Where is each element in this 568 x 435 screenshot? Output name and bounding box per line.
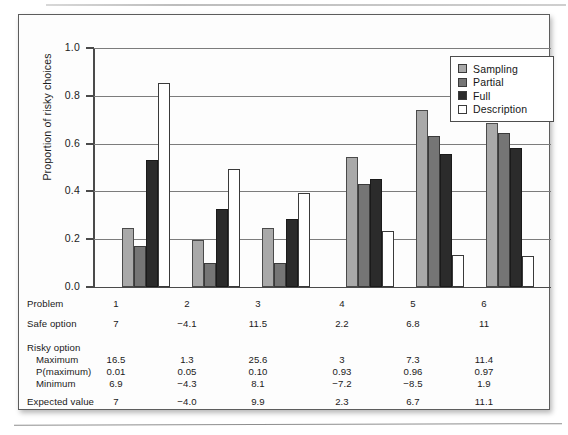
table-cell: 25.6 xyxy=(235,354,281,365)
table-cell: 7 xyxy=(93,396,139,407)
table-cell: −4.0 xyxy=(164,396,210,407)
table-cell: 0.97 xyxy=(461,366,507,377)
table-row-label: Problem xyxy=(27,298,63,309)
table-cell: 0.96 xyxy=(390,366,436,377)
bar-partial-problem-1 xyxy=(134,246,146,287)
table-cell: 11.1 xyxy=(461,396,507,407)
bar-partial-problem-2 xyxy=(204,263,216,287)
bar-description-problem-5 xyxy=(452,255,464,287)
table-cell: 0.10 xyxy=(235,366,281,377)
table-cell: 5 xyxy=(390,298,436,309)
legend-swatch-full-icon xyxy=(458,91,467,100)
legend-swatch-description-icon xyxy=(458,105,467,114)
bar-full-problem-5 xyxy=(440,154,452,287)
y-axis-tick xyxy=(86,95,94,97)
table-row: Problem123456 xyxy=(27,298,543,311)
bar-full-problem-1 xyxy=(146,160,158,287)
table-row-label: Safe option xyxy=(27,318,77,329)
bar-description-problem-3 xyxy=(298,193,310,287)
legend-label: Partial xyxy=(473,76,504,88)
table-row-label: Maximum xyxy=(36,354,78,365)
y-axis-tick xyxy=(86,47,94,49)
legend-label: Sampling xyxy=(473,63,518,75)
table-cell: 6.9 xyxy=(93,378,139,389)
bar-sampling-problem-6 xyxy=(486,123,498,287)
bar-group-problem-4 xyxy=(346,48,394,287)
bar-sampling-problem-5 xyxy=(416,110,428,287)
legend-item-description: Description xyxy=(458,103,547,116)
table-cell: 9.9 xyxy=(235,396,281,407)
bar-full-problem-4 xyxy=(370,179,382,287)
table-row-label: P(maximum) xyxy=(36,366,91,377)
bar-description-problem-1 xyxy=(158,83,170,287)
y-axis-tick xyxy=(86,143,94,145)
bar-partial-problem-5 xyxy=(428,136,440,287)
y-axis-tick-label: 0.2 xyxy=(46,232,80,244)
bar-group-problem-2 xyxy=(192,48,240,287)
table-cell: 11.5 xyxy=(235,318,281,329)
bar-partial-problem-6 xyxy=(498,133,510,287)
legend-item-partial: Partial xyxy=(458,76,547,89)
table-cell: 4 xyxy=(319,298,365,309)
table-cell: 8.1 xyxy=(235,378,281,389)
bar-group-problem-3 xyxy=(262,48,310,287)
table-cell: 11 xyxy=(461,318,507,329)
bar-description-problem-2 xyxy=(228,169,240,287)
table-cell: 7 xyxy=(93,318,139,329)
legend-item-sampling: Sampling xyxy=(458,62,547,75)
table-cell: 0.05 xyxy=(164,366,210,377)
bar-sampling-problem-4 xyxy=(346,157,358,287)
y-axis-tick-label: 0.0 xyxy=(46,280,80,292)
table-cell: 2 xyxy=(164,298,210,309)
table-cell: 7.3 xyxy=(390,354,436,365)
table-cell: −7.2 xyxy=(319,378,365,389)
table-cell: 0.93 xyxy=(319,366,365,377)
table-cell: 11.4 xyxy=(461,354,507,365)
figure-frame: 1.00.80.60.40.20.0Proportion of risky ch… xyxy=(18,14,550,410)
table-cell: 2.3 xyxy=(319,396,365,407)
axis-baseline xyxy=(94,287,551,288)
table-cell: 3 xyxy=(319,354,365,365)
table-row: Expected value7−4.09.92.36.711.1 xyxy=(27,396,543,409)
table-cell: −4.1 xyxy=(164,318,210,329)
bar-sampling-problem-2 xyxy=(192,240,204,287)
page-top-rule xyxy=(46,4,566,6)
table-cell: 1.9 xyxy=(461,378,507,389)
legend-swatch-sampling-icon xyxy=(458,64,467,73)
page-bottom-rule xyxy=(14,423,562,426)
legend-item-full: Full xyxy=(458,89,547,102)
table-cell: −4.3 xyxy=(164,378,210,389)
y-axis-tick xyxy=(86,190,94,192)
bar-full-problem-2 xyxy=(216,209,228,287)
y-axis-tick xyxy=(86,238,94,240)
table-cell: 0.01 xyxy=(93,366,139,377)
y-axis-tick xyxy=(86,286,94,288)
table-cell: 3 xyxy=(235,298,281,309)
table-row-label: Minimum xyxy=(36,378,76,389)
legend-swatch-partial-icon xyxy=(458,78,467,87)
bar-description-problem-4 xyxy=(382,231,394,287)
bar-group-problem-1 xyxy=(122,48,170,287)
bar-full-problem-3 xyxy=(286,219,298,287)
table-cell: 16.5 xyxy=(93,354,139,365)
bar-sampling-problem-1 xyxy=(122,228,134,287)
table-cell: 1.3 xyxy=(164,354,210,365)
table-cell: 1 xyxy=(93,298,139,309)
table-row: Minimum6.9−4.38.1−7.2−8.51.9 xyxy=(27,378,543,391)
bar-partial-problem-3 xyxy=(274,263,286,287)
table-cell: 6 xyxy=(461,298,507,309)
y-axis-title: Proportion of risky choices xyxy=(41,27,53,207)
legend-label: Full xyxy=(473,90,491,102)
table-row-label: Risky option xyxy=(27,342,80,353)
bar-description-problem-6 xyxy=(522,256,534,287)
bar-sampling-problem-3 xyxy=(262,228,274,287)
chart-legend: SamplingPartialFullDescription xyxy=(450,56,554,122)
bar-partial-problem-4 xyxy=(358,184,370,287)
legend-label: Description xyxy=(473,103,527,115)
table-row-label: Expected value xyxy=(27,396,94,407)
table-cell: 6.7 xyxy=(390,396,436,407)
table-cell: 2.2 xyxy=(319,318,365,329)
table-cell: 6.8 xyxy=(390,318,436,329)
bar-full-problem-6 xyxy=(510,148,522,287)
table-row: Safe option7−4.111.52.26.811 xyxy=(27,318,543,331)
